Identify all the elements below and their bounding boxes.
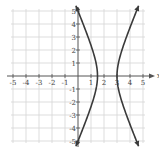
x-tick-label: -2 bbox=[49, 79, 56, 87]
x-tick-label: -4 bbox=[23, 79, 30, 87]
y-tick-label: 2 bbox=[72, 47, 76, 55]
y-tick-label: 5 bbox=[72, 8, 76, 16]
y-tick-label: 1 bbox=[72, 60, 76, 68]
x-axis-label: x bbox=[157, 72, 159, 80]
x-axis-arrow-icon bbox=[149, 74, 155, 79]
hyperbola-chart: x -5-4-3-2-112345-5-4-3-2-112345 bbox=[0, 0, 159, 161]
x-tick-label: 1 bbox=[89, 79, 93, 87]
x-tick-label: -1 bbox=[62, 79, 69, 87]
x-tick-label: 5 bbox=[141, 79, 145, 87]
y-tick-label: -5 bbox=[69, 138, 76, 146]
y-tick-label: -4 bbox=[69, 125, 76, 133]
y-tick-label: -2 bbox=[69, 99, 76, 107]
y-tick-label: -3 bbox=[69, 112, 76, 120]
y-tick-label: 4 bbox=[72, 21, 77, 29]
y-tick-label: -1 bbox=[69, 86, 76, 94]
x-tick-label: 2 bbox=[102, 79, 106, 87]
y-tick-label: 3 bbox=[72, 34, 76, 42]
x-tick-label: 4 bbox=[128, 79, 133, 87]
x-tick-label: -3 bbox=[36, 79, 43, 87]
x-tick-label: -5 bbox=[10, 79, 17, 87]
